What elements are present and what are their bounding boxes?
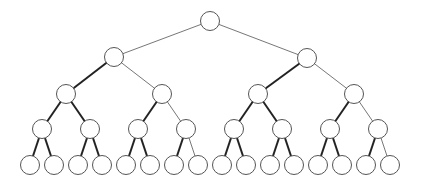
binary-tree-diagram — [0, 0, 421, 185]
tree-node — [309, 156, 328, 175]
tree-node — [273, 120, 292, 139]
tree-node — [129, 120, 148, 139]
tree-node — [21, 156, 40, 175]
tree-node — [141, 156, 160, 175]
tree-node — [33, 120, 52, 139]
tree-node — [57, 85, 76, 104]
tree-node — [249, 85, 268, 104]
tree-node — [333, 156, 352, 175]
tree-node — [45, 156, 64, 175]
tree-node — [165, 156, 184, 175]
tree-edge — [114, 21, 210, 57]
tree-node — [285, 156, 304, 175]
tree-node — [153, 85, 172, 104]
tree-node — [93, 156, 112, 175]
tree-node — [369, 120, 388, 139]
tree-node — [177, 120, 196, 139]
tree-node — [261, 156, 280, 175]
tree-node — [225, 120, 244, 139]
tree-node — [189, 156, 208, 175]
tree-node — [237, 156, 256, 175]
tree-node — [345, 85, 364, 104]
tree-node — [117, 156, 136, 175]
tree-node — [201, 12, 220, 31]
tree-nodes — [21, 12, 400, 175]
tree-node — [357, 156, 376, 175]
tree-edges — [30, 21, 390, 165]
tree-edge — [210, 21, 307, 58]
tree-node — [213, 156, 232, 175]
tree-node — [381, 156, 400, 175]
tree-node — [69, 156, 88, 175]
tree-node — [298, 49, 317, 68]
tree-node — [105, 48, 124, 67]
tree-node — [321, 120, 340, 139]
tree-node — [81, 120, 100, 139]
